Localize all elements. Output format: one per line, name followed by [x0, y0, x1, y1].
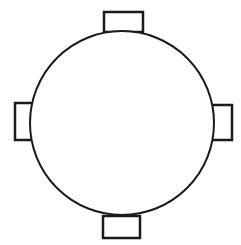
- round-table-with-chairs: [0, 0, 241, 245]
- floor-plan-diagram: [0, 0, 241, 245]
- chair-right: [212, 105, 232, 140]
- round-table: [30, 31, 214, 215]
- chair-bottom: [103, 216, 140, 238]
- chair-top: [104, 12, 143, 32]
